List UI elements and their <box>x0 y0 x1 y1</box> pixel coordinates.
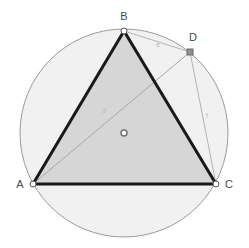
segment-label-f: f <box>206 112 208 119</box>
center-marker-o[interactable] <box>121 130 127 136</box>
vertex-marker-c[interactable] <box>213 181 219 187</box>
segment-label-d: d <box>102 107 106 114</box>
point-label-a: A <box>16 178 24 190</box>
point-label-c: C <box>225 178 233 190</box>
geometry-diagram-canvas: A B C D e d f <box>0 0 249 248</box>
segment-label-e: e <box>156 41 160 48</box>
point-label-b: B <box>120 10 127 22</box>
geometry-figure: A B C D e d f <box>0 0 249 248</box>
vertex-marker-a[interactable] <box>30 181 36 187</box>
point-marker-d[interactable] <box>187 49 193 55</box>
vertex-marker-b[interactable] <box>121 28 127 34</box>
point-label-d: D <box>189 31 197 43</box>
